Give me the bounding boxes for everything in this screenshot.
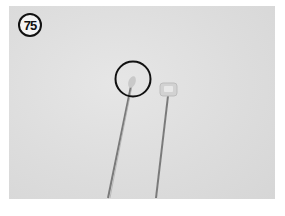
figure-illustration: [0, 0, 285, 216]
right-wire: [156, 83, 177, 198]
